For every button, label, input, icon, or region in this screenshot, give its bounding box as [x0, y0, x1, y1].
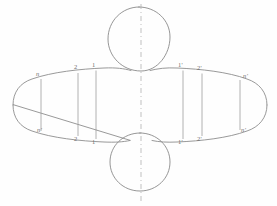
geometric-figure-canvas: n 2 1 1' 2' n' n' 2 1 1' 2' n' [0, 0, 277, 206]
lens-outline-upper [13, 68, 267, 105]
diagram-svg [0, 0, 277, 206]
label-upper-1-prime: 1' [178, 62, 183, 69]
label-upper-n-prime: n' [243, 73, 248, 80]
label-lower-2: 2 [74, 136, 77, 143]
label-lower-2-prime: 2' [197, 136, 202, 143]
label-upper-1: 1 [92, 62, 95, 69]
label-lower-n-prime-left: n' [37, 127, 42, 134]
label-upper-2-prime: 2' [197, 65, 202, 72]
label-lower-1-prime: 1' [178, 139, 183, 146]
upper-circle [108, 7, 170, 71]
lens-outline-lower [13, 105, 267, 142]
label-lower-1: 1 [92, 139, 95, 146]
label-upper-2: 2 [74, 64, 77, 71]
label-lower-n-prime-right: n' [241, 127, 246, 134]
lower-circle [110, 133, 170, 191]
label-upper-n: n [36, 71, 39, 78]
